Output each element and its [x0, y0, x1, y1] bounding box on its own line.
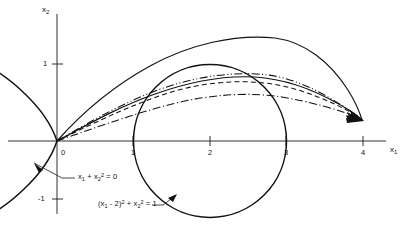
y-axis-label-subscript: 2: [46, 9, 49, 15]
parabola-equation-label: x1 + x22 = 0: [78, 173, 117, 182]
parabola-eq-mid: + x: [85, 172, 98, 181]
y-tick-label-1: 1: [43, 60, 47, 68]
trajectory-dashdotdot: [57, 74, 362, 141]
parabola-constraint-upper-branch: [0, 72, 57, 141]
x-tick-label-3: 3: [284, 149, 288, 157]
trajectory-dashdot: [57, 94, 362, 141]
x-axis-label-subscript: 1: [394, 149, 397, 155]
parabola-constraint-lower-branch: [0, 141, 57, 210]
figure-container: x2 x1 0 1 2 3 4 1 -1 x1 + x22 = 0 (x1 - …: [0, 0, 409, 229]
circle-eq-plus: + x: [125, 199, 138, 208]
x-tick-label-2: 2: [208, 149, 212, 157]
circle-leader-arrowhead: [168, 194, 177, 202]
trajectory-inner-solid: [57, 77, 362, 141]
circle-equation-label: (x1 - 2)2 + x22 = 1: [98, 200, 157, 209]
circle-eq-tail: = 1: [144, 199, 157, 208]
x-tick-label-4: 4: [361, 149, 365, 157]
x-axis-label: x1: [390, 146, 397, 156]
parabola-leader-arrowhead: [34, 163, 43, 173]
trajectory-dashed: [57, 82, 362, 141]
y-axis-label: x2: [42, 6, 49, 16]
y-tick-label-minus-1: -1: [38, 195, 45, 203]
x-tick-label-1: 1: [131, 149, 135, 157]
x-tick-label-0: 0: [61, 149, 65, 157]
plot-canvas: [0, 0, 409, 229]
circle-eq-minus: - 2): [108, 199, 122, 208]
parabola-eq-tail: = 0: [104, 172, 117, 181]
